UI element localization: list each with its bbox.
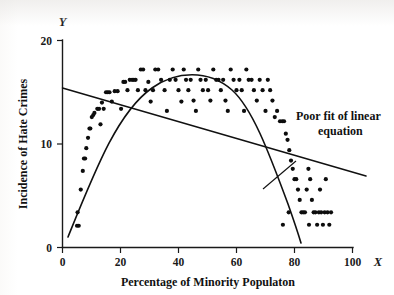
data-point	[201, 88, 205, 92]
data-point	[232, 78, 236, 82]
data-point	[216, 78, 220, 82]
y-axis-letter: Y	[59, 15, 68, 29]
data-point	[327, 223, 331, 227]
data-point	[196, 67, 200, 71]
data-point	[285, 138, 289, 142]
scatter-plot-svg: 20 10 0 0 20 40 60 80 100 Y X Percentage…	[0, 0, 394, 295]
data-point	[81, 169, 85, 173]
data-point	[179, 99, 183, 103]
data-point	[123, 80, 127, 84]
data-point	[168, 78, 172, 82]
data-point	[321, 223, 325, 227]
data-point	[284, 132, 288, 136]
data-point	[88, 126, 92, 130]
data-point	[318, 187, 322, 191]
data-point	[165, 109, 169, 113]
scatter-points-layer	[75, 67, 333, 227]
data-point	[307, 223, 311, 227]
x-tick-label-0: 0	[60, 256, 66, 268]
y-axis-ticks	[57, 41, 63, 248]
data-point	[219, 88, 223, 92]
data-point	[116, 89, 120, 93]
data-point	[315, 223, 319, 227]
data-point	[268, 88, 272, 92]
data-point	[263, 109, 267, 113]
y-axis-title: Incidence of Hate Crimes	[16, 79, 30, 210]
data-point	[184, 78, 188, 82]
data-point	[182, 67, 186, 71]
x-axis-ticks	[63, 248, 353, 254]
data-point	[324, 177, 328, 181]
data-point	[306, 167, 310, 171]
data-point	[84, 146, 88, 150]
data-point	[252, 88, 256, 92]
data-point	[211, 67, 215, 71]
data-point	[287, 148, 291, 152]
data-point	[146, 80, 150, 84]
data-point	[242, 109, 246, 113]
data-point	[270, 98, 274, 102]
data-point	[308, 177, 312, 181]
x-tick-label-100: 100	[344, 256, 362, 268]
data-point	[119, 107, 123, 111]
data-point	[287, 210, 291, 214]
data-point	[258, 78, 262, 82]
data-point	[221, 78, 225, 82]
data-point	[125, 88, 129, 92]
y-tick-label-20: 20	[41, 35, 53, 47]
data-point	[282, 119, 286, 123]
data-point	[86, 136, 90, 140]
data-point	[206, 88, 210, 92]
data-point	[194, 109, 198, 113]
data-point	[296, 187, 300, 191]
y-tick-label-10: 10	[41, 138, 53, 150]
data-point	[156, 67, 160, 71]
data-point	[305, 187, 309, 191]
data-point	[102, 107, 106, 111]
x-tick-label-80: 80	[289, 256, 301, 268]
data-point	[176, 88, 180, 92]
data-point	[171, 67, 175, 71]
data-point	[234, 88, 238, 92]
data-point	[98, 122, 102, 126]
data-point	[329, 210, 333, 214]
data-point	[83, 156, 87, 160]
data-point	[136, 88, 140, 92]
data-point	[273, 115, 277, 119]
data-point	[237, 78, 241, 82]
data-point	[75, 210, 79, 214]
data-point	[110, 99, 114, 103]
x-axis-title: Percentage of Minority Populaton	[121, 275, 295, 289]
data-point	[291, 167, 295, 171]
data-point	[294, 177, 298, 181]
data-point	[249, 78, 253, 82]
data-point	[281, 223, 285, 227]
data-point	[174, 78, 178, 82]
data-point	[226, 109, 230, 113]
data-point	[100, 101, 104, 105]
data-point	[208, 98, 212, 102]
data-point	[189, 78, 193, 82]
annotation-leader-line	[263, 161, 296, 189]
x-tick-label-20: 20	[115, 256, 127, 268]
x-tick-label-60: 60	[231, 256, 243, 268]
data-point	[97, 107, 101, 111]
data-point	[204, 78, 208, 82]
data-point	[162, 88, 166, 92]
chart-figure: 20 10 0 0 20 40 60 80 100 Y X Percentage…	[0, 0, 394, 295]
data-point	[198, 78, 202, 82]
data-point	[240, 88, 244, 92]
data-point	[223, 98, 227, 102]
data-point	[261, 88, 265, 92]
data-point	[244, 67, 248, 71]
data-point	[310, 198, 314, 202]
data-point	[133, 78, 137, 82]
data-point	[143, 88, 147, 92]
data-point	[255, 98, 259, 102]
data-point	[266, 78, 270, 82]
annotation-line-2: equation	[318, 124, 363, 138]
data-point	[186, 88, 190, 92]
data-point	[92, 111, 96, 115]
data-point	[77, 224, 81, 228]
data-point	[79, 187, 83, 191]
